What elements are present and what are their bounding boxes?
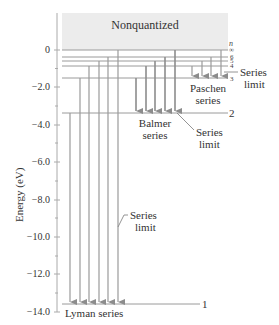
balmer-limit-leader bbox=[177, 113, 194, 130]
paschen-series-label-1: Paschen bbox=[188, 82, 228, 94]
paschen-limit-label-2: limit bbox=[244, 78, 265, 90]
n-label-1: 1 bbox=[202, 298, 208, 310]
lyman-limit-leader bbox=[118, 215, 128, 227]
tick-0: 0 bbox=[6, 45, 50, 55]
tick-minus-6: −6.0 bbox=[6, 157, 50, 167]
tick-minus-2: −2.0 bbox=[6, 82, 50, 92]
balmer-series-label-1: Balmer bbox=[135, 117, 175, 129]
tick-minus-10: −10.0 bbox=[6, 232, 50, 242]
paschen-series-label-2: series bbox=[188, 94, 228, 106]
balmer-arrows bbox=[136, 50, 175, 111]
lyman-arrows bbox=[70, 50, 118, 302]
tick-minus-12: −12.0 bbox=[6, 269, 50, 279]
nonquantized-label: Nonquantized bbox=[62, 19, 228, 31]
n-label-2: 2 bbox=[229, 107, 235, 119]
balmer-limit-label-1: Series bbox=[196, 126, 223, 138]
lyman-limit-label-2: limit bbox=[135, 221, 156, 233]
balmer-limit-label-2: limit bbox=[199, 138, 220, 150]
lyman-limit-label-1: Series bbox=[130, 209, 157, 221]
y-axis-label: Energy (eV) bbox=[13, 168, 25, 222]
n-label-4: 4 bbox=[230, 63, 234, 70]
tick-minus-14: −14.0 bbox=[6, 307, 50, 317]
lyman-series-label: Lyman series bbox=[65, 307, 123, 319]
paschen-limit-label-1: Series bbox=[240, 66, 267, 78]
balmer-series-label-2: series bbox=[135, 129, 175, 141]
n-label-3: 3 bbox=[230, 76, 234, 83]
paschen-arrows bbox=[192, 50, 221, 76]
tick-minus-4: −4.0 bbox=[6, 120, 50, 130]
